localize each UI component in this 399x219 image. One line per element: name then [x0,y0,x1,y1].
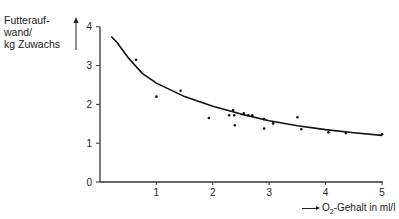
data-point [272,122,275,125]
data-point [228,114,231,117]
y-tick-label: 1 [86,138,92,149]
data-point [300,128,303,131]
x-tick-label: 2 [210,187,216,198]
data-point [243,112,246,115]
y-axis-arrow-icon [74,17,79,50]
data-point [327,131,330,134]
y-tick-label: 0 [86,177,92,188]
y-tick-label: 2 [86,99,92,110]
data-point [179,90,182,93]
data-point [232,109,235,112]
data-point [135,58,138,61]
axes: 0123412345 [86,21,385,198]
data-point [345,132,348,135]
data-point [208,117,211,120]
data-point [296,116,299,119]
y-tick-label: 3 [86,60,92,71]
x-axis-label: O2-Gehalt in ml/l [302,202,395,215]
x-tick-label: 1 [154,187,160,198]
data-point [251,114,254,117]
data-point [233,114,236,117]
x-tick-label: 3 [266,187,272,198]
x-tick-label: 4 [323,187,329,198]
data-points [135,58,384,135]
data-point [263,127,266,130]
data-point [155,95,158,98]
data-point [381,133,384,136]
x-tick-label: 5 [379,187,385,198]
chart-plot-area: 0123412345 [0,0,399,219]
y-tick-label: 4 [86,21,92,32]
fit-curve [111,37,382,136]
data-point [247,114,250,117]
x-axis-arrow-icon [302,208,316,209]
data-point [263,118,266,121]
data-point [233,124,236,127]
